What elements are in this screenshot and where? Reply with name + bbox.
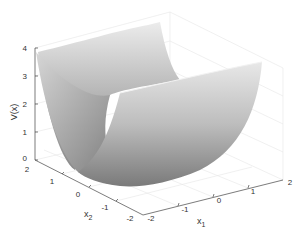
x1-axis-label: x1 [197,216,206,228]
z-tick-labels: 4 3 2 1 0 [23,44,28,163]
surface [36,22,262,186]
x1-tick: -1 [181,205,189,214]
x1-tick: 0 [217,196,222,205]
x2-tick: 2 [25,165,30,174]
z-tick: 4 [23,44,28,53]
x1-tick-labels: -2 -1 0 1 2 [147,178,292,223]
z-tick: 0 [23,154,28,163]
x2-tick: 0 [76,190,81,199]
x2-tick: -2 [126,214,134,223]
x1-tick: 1 [251,187,256,196]
z-axis-label: V(x) [9,104,19,121]
x2-axis-label: x2 [84,209,93,221]
z-tick: 1 [23,128,28,137]
x1-tick: 2 [288,178,293,187]
x1-tick: -2 [147,214,155,223]
surface-plot: 4 3 2 1 0 V(x) 2 1 0 -1 -2 x2 -2 -1 0 1 … [0,0,302,238]
x2-tick: 1 [50,177,55,186]
z-tick: 3 [23,72,28,81]
x2-tick: -1 [101,203,109,212]
z-tick: 2 [23,100,28,109]
